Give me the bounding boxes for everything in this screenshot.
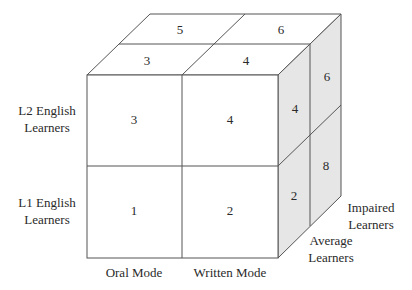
side-cell-back-bottom: 8 <box>323 158 330 173</box>
front-cell-bottom-right: 2 <box>227 203 234 218</box>
column-label-written: Written Mode <box>194 265 267 280</box>
side-cell-front-bottom: 2 <box>291 188 298 203</box>
top-cell-front-left: 3 <box>144 53 151 68</box>
front-cell-bottom-left: 1 <box>131 203 138 218</box>
depth-label-average-line2: Learners <box>308 250 353 265</box>
row-label-l2-line2: Learners <box>24 120 69 135</box>
top-cell-back-left: 5 <box>177 22 184 37</box>
cube-diagram: 3 4 1 2 3 4 5 6 4 6 2 8 L2 English Learn… <box>0 0 412 290</box>
side-cell-front-top: 4 <box>292 101 299 116</box>
front-cell-top-left: 3 <box>131 112 138 127</box>
row-label-l1-line2: Learners <box>24 212 69 227</box>
row-label-l2-line1: L2 English <box>18 103 76 118</box>
depth-label-average-line1: Average <box>309 233 352 248</box>
side-cell-back-top: 6 <box>324 69 331 84</box>
depth-label-impaired-line1: Impaired <box>348 200 395 215</box>
top-cell-front-right: 4 <box>243 53 250 68</box>
top-cell-back-right: 6 <box>278 22 285 37</box>
depth-label-impaired-line2: Learners <box>348 217 393 232</box>
front-cell-top-right: 4 <box>227 112 234 127</box>
row-label-l1-line1: L1 English <box>18 195 76 210</box>
column-label-oral: Oral Mode <box>106 265 163 280</box>
